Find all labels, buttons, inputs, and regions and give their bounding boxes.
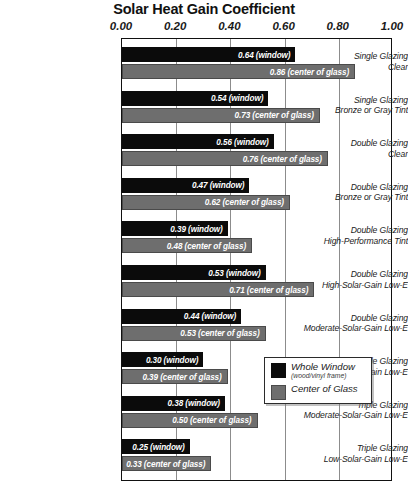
category-label-line2: High-Performance Tint [290, 236, 408, 247]
legend-text: Whole Window(wood/vinyl frame) [291, 362, 355, 380]
bar-center-of-glass: 0.62 (center of glass) [122, 195, 290, 210]
bar-whole-window: 0.38 (window) [122, 396, 225, 411]
bar-value-label: 0.53 (center of glass) [180, 329, 259, 338]
bar-whole-window: 0.54 (window) [122, 91, 268, 106]
category-label: Double GlazingModerate-Solar-Gain Low-E [290, 313, 408, 334]
category-label-line1: Single Glazing [354, 51, 408, 61]
bar-whole-window: 0.47 (window) [122, 178, 249, 193]
category-label-line1: Double Glazing [351, 313, 408, 323]
chart-legend: Whole Window(wood/vinyl frame)Center of … [264, 357, 372, 404]
bar-center-of-glass: 0.53 (center of glass) [122, 326, 266, 341]
legend-label: Whole Window [291, 362, 355, 372]
bar-center-of-glass: 0.48 (center of glass) [122, 238, 252, 253]
bar-whole-window: 0.30 (window) [122, 352, 203, 367]
category-label-line2: Moderate-Solar-Gain Low-E [290, 410, 408, 421]
category-label-line2: Low-Solar-Gain Low-E [290, 454, 408, 465]
bar-value-label: 0.47 (window) [192, 181, 244, 190]
solar-heat-gain-coefficient-chart: Solar Heat Gain Coefficient 0.000.200.40… [0, 0, 408, 504]
bar-value-label: 0.25 (window) [132, 442, 184, 451]
category-label: Double GlazingBronze or Gray Tint [290, 182, 408, 203]
bar-value-label: 0.54 (window) [211, 94, 263, 103]
x-tick-label-4: 0.80 [327, 20, 349, 32]
x-tick-label-2: 0.40 [218, 20, 240, 32]
bar-value-label: 0.33 (center of glass) [126, 459, 205, 468]
x-tick-label-5: 1.00 [381, 20, 403, 32]
bar-value-label: 0.44 (window) [184, 312, 236, 321]
x-tick-label-0: 0.00 [110, 20, 132, 32]
bar-value-label: 0.38 (window) [168, 399, 220, 408]
category-label-line2: Bronze or Gray Tint [290, 192, 408, 203]
x-tick-label-3: 0.60 [272, 20, 294, 32]
legend-swatch-window [271, 363, 286, 378]
bar-value-label: 0.53 (window) [208, 268, 260, 277]
bar-value-label: 0.48 (center of glass) [167, 241, 246, 250]
bar-whole-window: 0.53 (window) [122, 265, 266, 280]
bar-whole-window: 0.39 (window) [122, 221, 228, 236]
bar-value-label: 0.39 (window) [170, 224, 222, 233]
x-axis-tick-labels: 0.000.200.400.600.801.00 [0, 20, 408, 36]
bar-center-of-glass: 0.33 (center of glass) [122, 456, 211, 471]
category-label: Double GlazingClear [290, 138, 408, 159]
category-label-line1: Double Glazing [351, 138, 408, 148]
legend-sublabel: (wood/vinyl frame) [291, 372, 355, 380]
legend-text: Center of Glass [291, 384, 358, 394]
category-label-line1: Double Glazing [351, 225, 408, 235]
category-label-line1: Double Glazing [351, 269, 408, 279]
bar-whole-window: 0.25 (window) [122, 439, 190, 454]
category-label-line1: Double Glazing [351, 182, 408, 192]
x-tick-label-1: 0.20 [164, 20, 186, 32]
bar-whole-window: 0.44 (window) [122, 309, 241, 324]
category-label-line2: Clear [290, 62, 408, 73]
chart-title: Solar Heat Gain Coefficient [0, 1, 408, 17]
category-label: Single GlazingBronze or Gray Tint [290, 95, 408, 116]
bar-whole-window: 0.56 (window) [122, 134, 274, 149]
bar-whole-window: 0.64 (window) [122, 47, 295, 62]
category-label: Double GlazingHigh-Solar-Gain Low-E [290, 269, 408, 290]
category-label: Double GlazingHigh-Performance Tint [290, 225, 408, 246]
bar-center-of-glass: 0.50 (center of glass) [122, 413, 258, 428]
legend-swatch-cog [271, 385, 286, 400]
category-label: Triple GlazingLow-Solar-Gain Low-E [290, 443, 408, 464]
category-label-line2: Bronze or Gray Tint [290, 105, 408, 116]
bar-value-label: 0.39 (center of glass) [142, 372, 221, 381]
category-label: Single GlazingClear [290, 51, 408, 72]
bar-value-label: 0.50 (center of glass) [172, 416, 251, 425]
category-label-line1: Single Glazing [354, 95, 408, 105]
category-label-line2: Clear [290, 149, 408, 160]
category-label-line2: High-Solar-Gain Low-E [290, 280, 408, 291]
bar-value-label: 0.62 (center of glass) [205, 198, 284, 207]
bar-value-label: 0.64 (window) [238, 50, 290, 59]
bar-center-of-glass: 0.39 (center of glass) [122, 369, 228, 384]
category-label-line1: Triple Glazing [357, 443, 408, 453]
bar-center-of-glass: 0.71 (center of glass) [122, 282, 314, 297]
category-label-line2: Moderate-Solar-Gain Low-E [290, 323, 408, 334]
legend-label: Center of Glass [291, 384, 358, 394]
bar-value-label: 0.30 (window) [146, 355, 198, 364]
bar-value-label: 0.56 (window) [216, 137, 268, 146]
